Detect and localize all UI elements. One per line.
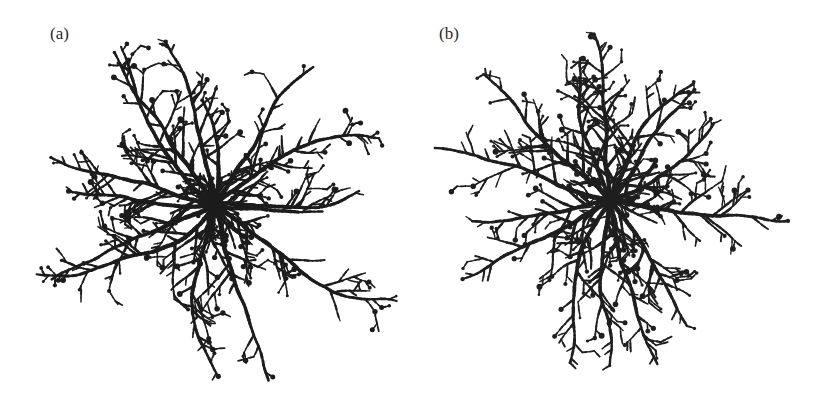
dendritic-fractal-pattern-b xyxy=(417,0,834,395)
dendritic-fractal-pattern-a xyxy=(0,0,417,395)
panel-label-b: (b) xyxy=(439,25,459,42)
panel-label-a: (a) xyxy=(50,25,69,42)
panel-a: (a) xyxy=(0,0,417,395)
panel-b: (b) xyxy=(417,0,834,395)
